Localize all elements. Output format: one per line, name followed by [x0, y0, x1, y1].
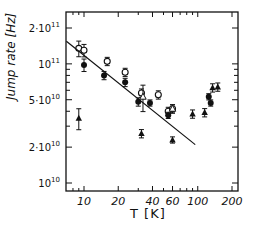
open-circle-marker [81, 47, 87, 53]
x-tick-label: 10 [77, 195, 91, 208]
open-circle-marker [155, 92, 161, 98]
x-tick-label: 100 [187, 195, 208, 208]
y-tick-label: 2·1011 [29, 21, 60, 34]
filled-circle-marker [208, 100, 214, 106]
filled-circle-marker [206, 94, 212, 100]
filled-triangle-marker [201, 109, 207, 115]
filled-circle-marker [122, 79, 128, 85]
filled-circle-marker [81, 62, 87, 68]
open-circle-marker [104, 58, 110, 64]
filled-circle-marker [135, 99, 141, 105]
x-tick-label: 20 [111, 195, 125, 208]
open-circle-marker [122, 69, 128, 75]
chart-plot: 1020406010020010102·10105·101010112·1011 [0, 0, 253, 232]
y-tick-label: 2·1010 [29, 140, 60, 153]
x-axis-label: T [K] [130, 206, 166, 221]
y-tick-label: 1011 [38, 57, 60, 70]
y-tick-label: 1010 [38, 176, 60, 189]
filled-triangle-marker [76, 115, 82, 121]
filled-triangle-marker [189, 110, 195, 116]
filled-circle-marker [147, 100, 153, 106]
y-axis-label: Jump rate [Hz] [4, 13, 18, 100]
y-tick-label: 5·1010 [29, 93, 60, 106]
filled-triangle-marker [138, 130, 144, 136]
x-tick-label: 60 [166, 195, 180, 208]
fit-line [66, 41, 195, 144]
filled-triangle-marker [215, 83, 221, 89]
x-tick-label: 200 [222, 195, 243, 208]
